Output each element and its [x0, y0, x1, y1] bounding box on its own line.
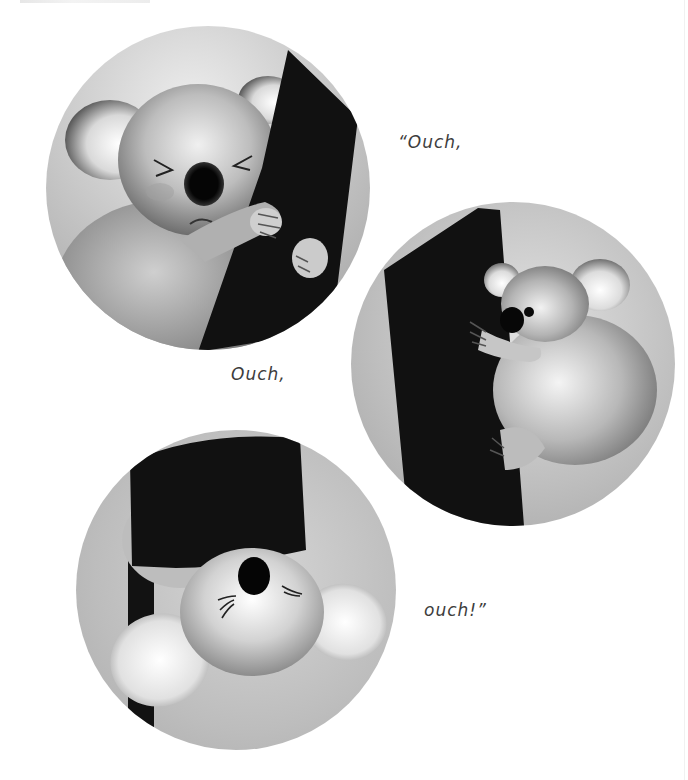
- illustration-panel-3: [74, 428, 398, 752]
- illustration-panel-1: [46, 26, 370, 350]
- koala-climbing-illustration: [351, 202, 675, 526]
- koala-looking-up-illustration: [74, 428, 398, 752]
- page-edge-line: [684, 0, 685, 780]
- caption-ouch-1: “Ouch,: [398, 132, 463, 152]
- caption-ouch-3: ouch!”: [424, 600, 487, 620]
- clipped-header-text: [20, 0, 150, 3]
- caption-ouch-2: Ouch,: [231, 364, 286, 384]
- storybook-page: “Ouch, Ouch, ouch!”: [0, 0, 688, 780]
- koala-squinting-illustration: [46, 26, 370, 350]
- illustration-panel-2: [351, 202, 675, 526]
